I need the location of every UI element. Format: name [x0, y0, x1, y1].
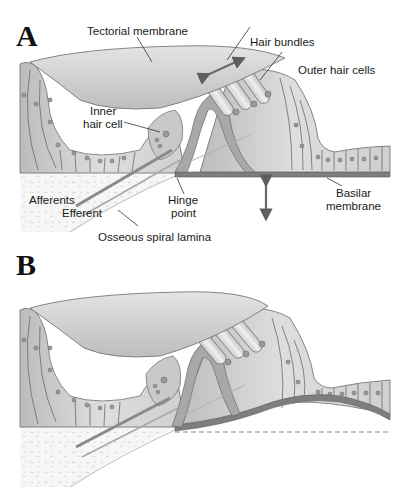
cochlea-diagram: A	[0, 0, 409, 496]
label-afferents: Afferents	[29, 194, 75, 206]
panel-letter-b: B	[16, 248, 36, 281]
label-hinge-point-2: point	[171, 207, 197, 219]
label-hinge-point-1: Hinge	[168, 194, 198, 206]
label-tectorial-membrane: Tectorial membrane	[87, 25, 188, 37]
label-inner-hair-cell-2: hair cell	[83, 118, 123, 130]
label-osseous-spiral-lamina: Osseous spiral lamina	[98, 231, 212, 243]
label-outer-hair-cells: Outer hair cells	[298, 64, 376, 76]
label-inner-hair-cell-1: Inner	[90, 105, 116, 117]
label-basilar-1: Basilar	[336, 187, 371, 199]
panel-a: A	[16, 19, 390, 243]
panel-b: B	[16, 248, 390, 487]
panel-letter-a: A	[16, 19, 38, 52]
label-efferent: Efferent	[62, 207, 103, 219]
label-hair-bundles: Hair bundles	[250, 36, 315, 48]
basilar-membrane	[175, 172, 390, 177]
label-basilar-2: membrane	[326, 200, 381, 212]
